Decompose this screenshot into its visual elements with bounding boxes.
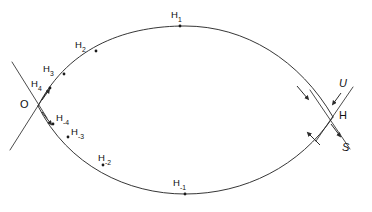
dot-Hm3: [67, 136, 70, 139]
orbit-label-Hm4-base: H: [56, 112, 63, 123]
orbit-label-H2: H2: [75, 40, 86, 50]
orbit-label-Hm4-sub: -4: [63, 119, 69, 126]
orbit-label-H1: H1: [171, 10, 182, 20]
arrowheads: [42, 86, 341, 145]
orbit-label-Hm2-base: H: [98, 152, 105, 163]
orbit-label-Hm3-base: H: [71, 126, 78, 137]
unstable-line-arrow-icon: [333, 93, 341, 104]
dot-Hm1: [184, 193, 187, 196]
dot-H4: [49, 87, 52, 90]
orbit-label-Hm1-base: H: [173, 177, 180, 188]
orbit-label-H4-base: H: [31, 78, 38, 89]
orbit-label-H3-sub: 3: [50, 70, 54, 77]
upper-arc-arrow-near-O-icon: [42, 90, 49, 100]
lower-arc-arrow-near-O-icon: [42, 112, 51, 124]
dot-H2: [95, 50, 98, 53]
diagram-svg: [0, 0, 372, 212]
orbit-label-Hm1: H-1: [173, 178, 186, 188]
orbit-label-Hm2-sub: -2: [105, 159, 111, 166]
dot-H1: [179, 25, 182, 28]
upper-arc-arrow-near-H-icon: [297, 86, 308, 99]
orbit-point-dots: [49, 25, 187, 196]
orbit-label-Hm2: H-2: [98, 153, 111, 163]
crossing-lines-at-O: [10, 62, 48, 150]
orbit-label-H1-base: H: [171, 9, 178, 20]
orbit-label-H2-sub: 2: [82, 46, 86, 53]
diagram-canvas: O H U S H1 H2 H3 H4 H-4 H-3 H-2 H-1: [0, 0, 372, 212]
orbit-label-Hm3: H-3: [71, 127, 84, 137]
manifold-label-U: U: [339, 78, 347, 89]
orbit-label-H3: H3: [43, 64, 54, 74]
dot-Hm2: [102, 164, 105, 167]
stable-line-arrow-icon: [331, 124, 340, 136]
lower-arc-arrow-near-H-icon: [308, 133, 320, 145]
orbit-label-H2-base: H: [75, 39, 82, 50]
manifold-label-S: S: [342, 142, 349, 153]
fixed-point-label-H: H: [339, 110, 347, 121]
orbit-label-H3-base: H: [43, 63, 50, 74]
dot-Hm4: [52, 123, 55, 126]
orbit-label-Hm4: H-4: [56, 113, 69, 123]
orbit-label-Hm1-sub: -1: [180, 184, 186, 191]
fixed-point-label-O: O: [20, 99, 29, 110]
dot-H3: [63, 73, 66, 76]
orbit-label-H4-sub: 4: [38, 85, 42, 92]
orbit-label-Hm3-sub: -3: [78, 133, 84, 140]
orbit-label-H1-sub: 1: [178, 16, 182, 23]
orbit-label-H4: H4: [31, 79, 42, 89]
